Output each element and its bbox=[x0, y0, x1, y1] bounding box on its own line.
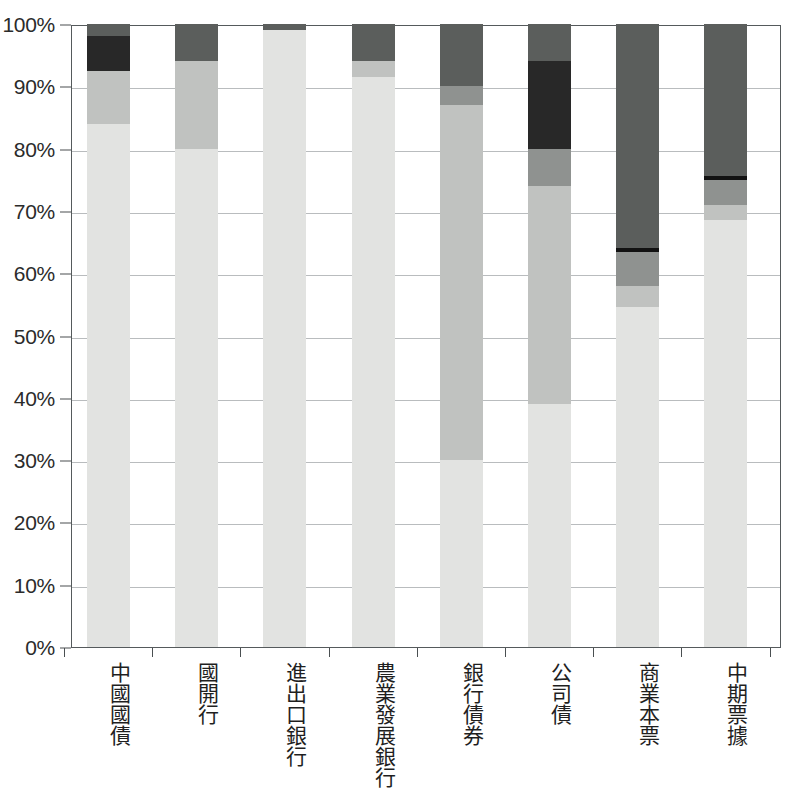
bar-8-segment-3[interactable] bbox=[704, 180, 747, 205]
bar-4-segment-3[interactable] bbox=[352, 24, 395, 61]
bar-5-segment-4[interactable] bbox=[440, 24, 483, 86]
x-axis-label-text: 中期票據 bbox=[725, 662, 746, 746]
bar-2-segment-1[interactable] bbox=[175, 149, 218, 647]
bar-1-segment-2[interactable] bbox=[87, 71, 130, 124]
y-tick-mark-90 bbox=[60, 87, 71, 88]
bar-4[interactable] bbox=[352, 24, 395, 647]
x-axis-label-2: 國開行 bbox=[174, 662, 217, 725]
bar-3-segment-1[interactable] bbox=[263, 30, 306, 647]
bar-8-segment-1[interactable] bbox=[704, 220, 747, 647]
bar-6-segment-5[interactable] bbox=[528, 24, 571, 61]
y-tick-mark-70 bbox=[60, 211, 71, 212]
y-tick-label-70: 70% bbox=[14, 200, 55, 224]
stacked-bar-chart: 0%10%20%30%40%50%60%70%80%90%100% 中國國債國開… bbox=[0, 0, 796, 804]
y-tick-label-30: 30% bbox=[14, 449, 55, 473]
x-axis-label-text: 公司債 bbox=[549, 662, 570, 725]
bar-6-segment-1[interactable] bbox=[528, 404, 571, 647]
y-tick-mark-60 bbox=[60, 274, 71, 275]
bar-1-segment-1[interactable] bbox=[87, 124, 130, 647]
y-tick-label-50: 50% bbox=[14, 325, 55, 349]
x-tick-mark-end bbox=[770, 648, 771, 657]
x-tick-mark-4 bbox=[329, 648, 330, 657]
bar-5[interactable] bbox=[440, 24, 483, 647]
bar-3[interactable] bbox=[263, 24, 306, 647]
x-axis-label-3: 進出口銀行 bbox=[262, 662, 305, 767]
bar-1-segment-4[interactable] bbox=[87, 24, 130, 36]
x-tick-mark-8 bbox=[681, 648, 682, 657]
x-axis-label-6: 公司債 bbox=[527, 662, 570, 725]
bar-7-segment-4[interactable] bbox=[616, 248, 659, 252]
bar-7-segment-3[interactable] bbox=[616, 252, 659, 286]
y-tick-label-90: 90% bbox=[14, 75, 55, 99]
y-tick-label-100: 100% bbox=[2, 13, 55, 37]
y-tick-label-0: 0% bbox=[25, 636, 55, 660]
x-axis-label-text: 農業發展銀行 bbox=[373, 662, 394, 788]
x-tick-mark-6 bbox=[505, 648, 506, 657]
y-tick-mark-0 bbox=[60, 648, 71, 649]
y-tick-label-80: 80% bbox=[14, 138, 55, 162]
x-axis-label-8: 中期票據 bbox=[703, 662, 746, 746]
y-tick-mark-80 bbox=[60, 149, 71, 150]
x-axis-label-text: 銀行債券 bbox=[461, 662, 482, 746]
x-axis-label-4: 農業發展銀行 bbox=[351, 662, 394, 788]
y-tick-label-40: 40% bbox=[14, 387, 55, 411]
bar-8[interactable] bbox=[704, 24, 747, 647]
y-tick-mark-50 bbox=[60, 336, 71, 337]
bar-4-segment-1[interactable] bbox=[352, 77, 395, 647]
y-tick-mark-40 bbox=[60, 398, 71, 399]
x-axis-label-7: 商業本票 bbox=[615, 662, 658, 746]
bar-7-segment-5[interactable] bbox=[616, 24, 659, 248]
x-axis-label-text: 商業本票 bbox=[637, 662, 658, 746]
bar-6-segment-4[interactable] bbox=[528, 61, 571, 148]
bar-1[interactable] bbox=[87, 24, 130, 647]
bar-4-segment-2[interactable] bbox=[352, 61, 395, 77]
bar-8-segment-4[interactable] bbox=[704, 176, 747, 180]
x-tick-mark-1 bbox=[64, 648, 65, 657]
bar-7-segment-2[interactable] bbox=[616, 286, 659, 308]
bar-6-segment-2[interactable] bbox=[528, 186, 571, 404]
bar-1-segment-3[interactable] bbox=[87, 36, 130, 70]
x-tick-mark-5 bbox=[417, 648, 418, 657]
bar-2-segment-2[interactable] bbox=[175, 61, 218, 148]
bar-6-segment-3[interactable] bbox=[528, 149, 571, 186]
bar-6[interactable] bbox=[528, 24, 571, 647]
x-axis-label-5: 銀行債券 bbox=[439, 662, 482, 746]
x-tick-mark-7 bbox=[593, 648, 594, 657]
bar-8-segment-2[interactable] bbox=[704, 205, 747, 221]
y-tick-mark-100 bbox=[60, 25, 71, 26]
y-tick-mark-30 bbox=[60, 461, 71, 462]
bar-7[interactable] bbox=[616, 24, 659, 647]
bar-5-segment-2[interactable] bbox=[440, 105, 483, 460]
x-tick-mark-2 bbox=[152, 648, 153, 657]
y-tick-mark-20 bbox=[60, 523, 71, 524]
y-tick-label-60: 60% bbox=[14, 262, 55, 286]
bar-5-segment-1[interactable] bbox=[440, 460, 483, 647]
plot-area bbox=[71, 25, 781, 648]
bar-2[interactable] bbox=[175, 24, 218, 647]
bar-2-segment-3[interactable] bbox=[175, 24, 218, 61]
bar-7-segment-1[interactable] bbox=[616, 307, 659, 647]
x-axis-label-text: 中國國債 bbox=[108, 662, 129, 746]
y-tick-label-20: 20% bbox=[14, 511, 55, 535]
x-axis-label-text: 進出口銀行 bbox=[284, 662, 305, 767]
x-axis-label-text: 國開行 bbox=[196, 662, 217, 725]
y-tick-label-10: 10% bbox=[14, 574, 55, 598]
x-tick-mark-3 bbox=[240, 648, 241, 657]
bar-3-segment-2[interactable] bbox=[263, 24, 306, 30]
y-axis: 0%10%20%30%40%50%60%70%80%90%100% bbox=[0, 0, 71, 804]
bar-5-segment-3[interactable] bbox=[440, 86, 483, 105]
y-tick-mark-10 bbox=[60, 585, 71, 586]
x-axis-label-1: 中國國債 bbox=[86, 662, 129, 746]
bar-8-segment-5[interactable] bbox=[704, 24, 747, 176]
